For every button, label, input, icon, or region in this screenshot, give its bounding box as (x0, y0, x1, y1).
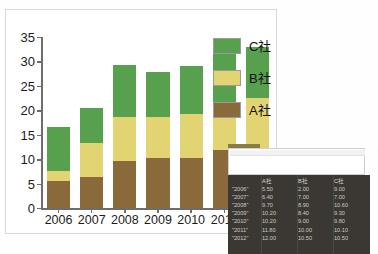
table-row[interactable]: "2009"10.208.409.30 (231, 209, 369, 217)
y-axis-label: 5 (28, 176, 35, 191)
y-axis-label: 10 (21, 152, 35, 167)
table-cell[interactable]: 10.20 (261, 209, 297, 217)
legend-swatch (213, 102, 241, 118)
bar-segment[interactable] (146, 117, 169, 158)
bar-segment[interactable] (47, 171, 70, 181)
bar-segment[interactable] (113, 117, 136, 160)
table-cell[interactable]: 10.50 (297, 234, 333, 242)
legend-label: A社 (249, 100, 271, 119)
y-axis-label: 20 (21, 103, 35, 118)
y-axis-label: 15 (21, 127, 35, 142)
table-cell[interactable]: 8.90 (297, 201, 333, 209)
table-cell[interactable]: 9.70 (261, 201, 297, 209)
table-row[interactable]: "2012"12.0010.5010.50 (231, 234, 369, 242)
y-axis-label: 35 (21, 30, 35, 45)
table-cell[interactable]: "2010" (231, 217, 261, 225)
table-cell[interactable]: 12.00 (261, 234, 297, 242)
y-axis-tick (37, 184, 42, 185)
table-cell[interactable]: 10.20 (261, 217, 297, 225)
x-axis-label: 2007 (78, 213, 106, 227)
table-cell[interactable]: "2008" (231, 201, 261, 209)
legend-item-a[interactable]: A社 (213, 100, 271, 119)
bar-2008[interactable] (113, 65, 136, 208)
bar-2010[interactable] (180, 66, 203, 208)
table-cell[interactable]: 7.00 (297, 193, 333, 201)
panel-header-blank (228, 148, 365, 175)
bar-segment[interactable] (180, 66, 203, 114)
legend-label: B社 (249, 68, 271, 87)
legend-swatch (213, 38, 241, 54)
legend-item-c[interactable]: C社 (213, 36, 271, 55)
data-table-panel[interactable]: A社B社C社"2006"5.502.009.00"2007"6.407.007.… (228, 148, 377, 254)
y-axis-tick (37, 135, 42, 136)
bar-2009[interactable] (146, 72, 169, 208)
table-row[interactable]: "2007"6.407.007.00 (231, 193, 369, 201)
x-axis-label: 2009 (144, 213, 172, 227)
table-row[interactable]: "2006"5.502.009.00 (231, 185, 369, 193)
table-row[interactable]: "2010"10.209.009.80 (231, 217, 369, 225)
x-axis-label: 2006 (45, 213, 73, 227)
bar-segment[interactable] (80, 108, 103, 142)
table-cell[interactable]: "2007" (231, 193, 261, 201)
y-axis-label: 25 (21, 78, 35, 93)
torn-edge-icon (364, 148, 378, 254)
table-cell[interactable]: 5.50 (261, 185, 297, 193)
bar-segment[interactable] (80, 177, 103, 208)
bar-segment[interactable] (146, 158, 169, 208)
y-axis-tick (37, 208, 42, 209)
table-header-cell: B社 (297, 177, 333, 185)
table-header-cell: A社 (261, 177, 297, 185)
y-axis-tick (37, 86, 42, 87)
table-cell[interactable]: 8.40 (297, 209, 333, 217)
chart-legend: C社B社A社 (213, 36, 271, 132)
table-cell[interactable]: 11.80 (261, 226, 297, 234)
bar-segment[interactable] (80, 143, 103, 177)
x-axis-label: 2008 (111, 213, 139, 227)
table-cell[interactable]: "2011" (231, 226, 261, 234)
bar-segment[interactable] (47, 127, 70, 171)
table-row[interactable]: "2011"11.8010.0010.10 (231, 226, 369, 234)
y-axis-tick (37, 37, 42, 38)
table-cell[interactable]: "2009" (231, 209, 261, 217)
table-header-cell (231, 177, 261, 185)
table-row[interactable]: "2008"9.708.9010.60 (231, 201, 369, 209)
table-cell[interactable]: 9.00 (297, 217, 333, 225)
legend-label: C社 (249, 36, 271, 55)
bar-segment[interactable] (180, 158, 203, 208)
legend-swatch (213, 70, 241, 86)
bar-segment[interactable] (146, 72, 169, 117)
y-axis-label: 0 (28, 201, 35, 216)
table-cell[interactable]: 10.00 (297, 226, 333, 234)
table-cell[interactable]: "2006" (231, 185, 261, 193)
y-axis-label: 30 (21, 54, 35, 69)
bar-2007[interactable] (80, 108, 103, 208)
y-axis-tick (37, 110, 42, 111)
panel-title-strip (230, 150, 365, 156)
table-header-row: A社B社C社 (231, 177, 369, 185)
y-axis-tick (37, 159, 42, 160)
bar-segment[interactable] (180, 114, 203, 158)
legend-item-b[interactable]: B社 (213, 68, 271, 87)
data-table[interactable]: A社B社C社"2006"5.502.009.00"2007"6.407.007.… (231, 177, 369, 242)
bar-segment[interactable] (113, 161, 136, 208)
x-axis-label: 2010 (177, 213, 205, 227)
bar-segment[interactable] (113, 65, 136, 117)
y-axis-tick (37, 61, 42, 62)
table-cell[interactable]: 6.40 (261, 193, 297, 201)
bar-2006[interactable] (47, 127, 70, 208)
cropped-top-text (4, 0, 124, 7)
table-cell[interactable]: 2.00 (297, 185, 333, 193)
bar-segment[interactable] (47, 181, 70, 208)
table-cell[interactable]: "2012" (231, 234, 261, 242)
